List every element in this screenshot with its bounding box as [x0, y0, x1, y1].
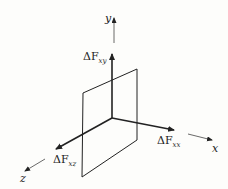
label-dFxy: ΔFxy	[83, 51, 106, 62]
vector-dFxz	[56, 118, 112, 149]
z-axis-arrow	[25, 159, 45, 171]
x-axis-label: x	[212, 143, 218, 154]
y-axis-label: y	[105, 13, 111, 24]
plane-element	[82, 69, 137, 177]
z-axis-label: z	[20, 173, 26, 184]
label-dFxz: ΔFxz	[53, 154, 76, 165]
label-dFxx: ΔFxx	[157, 135, 180, 146]
x-axis-arrow	[188, 134, 212, 140]
vector-dFxx	[112, 118, 174, 130]
axes-diagram	[0, 0, 228, 189]
